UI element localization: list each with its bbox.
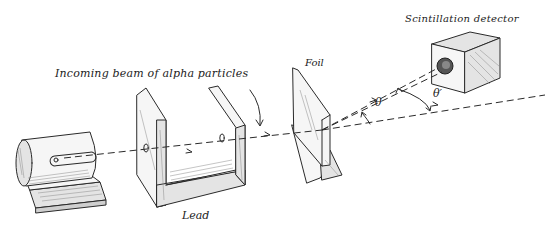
beam-label: Incoming beam of alpha particles — [55, 67, 248, 80]
foil — [292, 68, 342, 183]
theta-label: θ — [375, 96, 382, 109]
lead-label: Lead — [182, 209, 209, 222]
alpha-source — [16, 132, 106, 213]
pointer-arrow — [250, 90, 263, 126]
theta-prime-label: θ′ — [433, 87, 442, 100]
detector-label: Scintillation detector — [405, 13, 519, 24]
lead-block — [137, 86, 245, 207]
scintillation-detector — [432, 32, 500, 93]
foil-label: Foil — [305, 57, 324, 68]
scattering-diagram — [0, 0, 551, 235]
